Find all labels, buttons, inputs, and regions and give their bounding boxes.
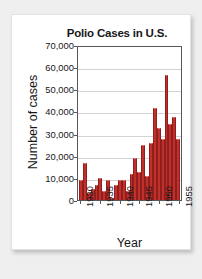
x-tick-label: 1930: [84, 186, 95, 207]
x-tick-mark: [120, 201, 121, 204]
y-tick-label: 70,000: [14, 40, 74, 51]
x-axis-title: Year: [77, 236, 182, 250]
y-tick-label: 60,000: [14, 62, 74, 73]
x-tick-mark: [139, 201, 140, 204]
y-tick-label: 20,000: [14, 151, 74, 162]
x-tick-mark: [179, 201, 180, 204]
y-tick-label: 0: [14, 195, 74, 206]
x-tick-mark: [100, 201, 101, 204]
x-tick-label: 1945: [143, 186, 154, 207]
x-tick-label: 1940: [124, 186, 135, 207]
x-tick-mark: [80, 201, 81, 204]
y-axis-ticks: 70,00060,00050,00040,00030,00020,00010,0…: [12, 46, 74, 201]
y-tick-label: 40,000: [14, 106, 74, 117]
x-tick-label: 1955: [183, 186, 194, 207]
bar-series: [78, 47, 181, 200]
y-tick-label: 30,000: [14, 129, 74, 140]
chart-title: Polio Cases in U.S.: [46, 27, 188, 39]
y-tick-label: 10,000: [14, 173, 74, 184]
plot-area: [77, 46, 182, 201]
x-tick-label: 1935: [104, 186, 115, 207]
chart-card: Polio Cases in U.S. Number of cases 70,0…: [11, 14, 191, 250]
bar: [176, 139, 180, 200]
x-tick-label: 1950: [163, 186, 174, 207]
x-tick-mark: [159, 201, 160, 204]
y-tick-label: 50,000: [14, 84, 74, 95]
